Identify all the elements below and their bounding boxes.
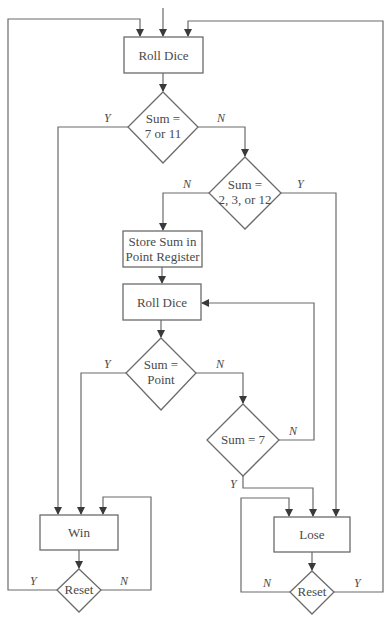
edge-d2-yes-lose — [281, 193, 336, 516]
label-d3-no: N — [215, 357, 225, 371]
node-label-line2: Point Register — [125, 249, 200, 264]
node-label-line1: Sum = — [144, 357, 178, 372]
label-d2-yes: Y — [297, 177, 305, 191]
edge-reset2-yes-roll1 — [188, 21, 383, 592]
craps-flowchart: Roll Dice Sum = 7 or 11 Sum = 2, 3, or 1… — [0, 0, 390, 621]
node-label-line1: Sum = — [228, 177, 262, 192]
node-store-sum: Store Sum in Point Register — [123, 231, 202, 267]
label-d1-no: N — [216, 111, 226, 125]
node-label: Roll Dice — [138, 48, 188, 63]
edge-reset1-yes-roll1 — [8, 19, 140, 590]
node-label: Lose — [299, 527, 325, 542]
label-d4-yes: Y — [230, 477, 238, 491]
edge-d1-yes-win — [58, 127, 128, 514]
node-win: Win — [40, 515, 118, 550]
node-label-line2: 7 or 11 — [145, 126, 181, 141]
label-d4-no: N — [288, 424, 298, 438]
node-reset-1: Reset — [57, 569, 101, 612]
node-label-line2: Point — [147, 372, 175, 387]
edge-d3-no-d4 — [196, 373, 243, 403]
node-reset-2: Reset — [290, 571, 334, 614]
edge-d3-yes-win — [81, 373, 126, 514]
label-reset2-no: N — [262, 576, 272, 590]
edge-d4-yes-lose — [243, 476, 313, 516]
node-label: Win — [68, 525, 90, 540]
node-label-line1: Sum = — [146, 111, 180, 126]
label-d3-yes: Y — [104, 357, 112, 371]
edge-d1-no-d2 — [198, 127, 245, 156]
node-lose: Lose — [274, 517, 350, 552]
node-roll-dice-2: Roll Dice — [123, 284, 201, 320]
node-label: Reset — [298, 584, 327, 599]
node-decision-7-or-11: Sum = 7 or 11 — [128, 92, 198, 163]
node-label-line1: Store Sum in — [129, 234, 197, 249]
node-decision-point: Sum = Point — [126, 338, 196, 410]
label-reset2-yes: Y — [354, 576, 362, 590]
edge-d2-no-store — [163, 193, 209, 230]
node-decision-sum-7: Sum = 7 — [207, 404, 279, 476]
node-roll-dice-1: Roll Dice — [124, 37, 203, 73]
label-reset1-no: N — [119, 574, 129, 588]
node-decision-2-3-12: Sum = 2, 3, or 12 — [209, 157, 281, 229]
node-label: Reset — [65, 582, 94, 597]
node-label-line2: 2, 3, or 12 — [218, 192, 271, 207]
label-d1-yes: Y — [104, 111, 112, 125]
node-label: Roll Dice — [137, 295, 187, 310]
node-label: Sum = 7 — [221, 432, 266, 447]
label-d2-no: N — [182, 177, 192, 191]
label-reset1-yes: Y — [30, 574, 38, 588]
